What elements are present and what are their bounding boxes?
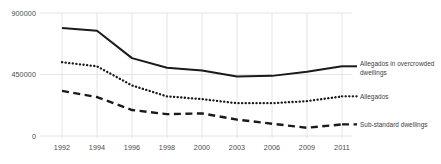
chart-plot-area	[0, 0, 441, 164]
x-axis-tick-label: 1994	[77, 143, 117, 152]
y-axis-tick-label: 0	[0, 132, 36, 141]
series-label-line: Allegados	[360, 93, 389, 101]
series-label-line: dwellings	[360, 69, 434, 77]
line-chart: 0450000900000 19921994199619982000200320…	[0, 0, 441, 164]
x-axis-tick-label: 2009	[287, 143, 327, 152]
x-axis-tick-label: 2000	[182, 143, 222, 152]
series-label-line: Sub-standard dwellings	[360, 121, 428, 129]
x-axis-tick-label: 1998	[147, 143, 187, 152]
x-axis-tick-label: 1996	[112, 143, 152, 152]
series-label-2: Sub-standard dwellings	[360, 121, 428, 129]
y-axis-tick-label: 900000	[0, 9, 36, 18]
series-label-0: Allegados in overcrowdeddwellings	[360, 60, 434, 76]
gridlines	[40, 13, 352, 138]
y-axis-tick-label: 450000	[0, 70, 36, 79]
series-label-line: Allegados in overcrowded	[360, 60, 434, 68]
x-axis-tick-label: 1992	[42, 143, 82, 152]
data-series-layer	[62, 28, 357, 128]
x-axis-tick-label: 2006	[252, 143, 292, 152]
x-axis-tick-label: 2003	[217, 143, 257, 152]
series-label-1: Allegados	[360, 93, 389, 101]
x-axis-tick-label: 2011	[322, 143, 362, 152]
